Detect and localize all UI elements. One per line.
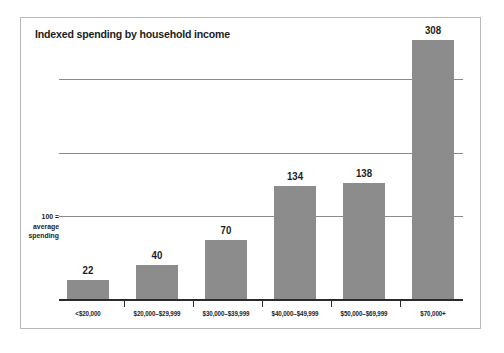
baseline-annotation-line2: average xyxy=(16,222,59,232)
bar-2[interactable] xyxy=(136,265,178,299)
bar-value-6: 308 xyxy=(414,24,453,36)
x-axis-tick-4 xyxy=(331,301,332,307)
chart-container: Indexed spending by household income 100… xyxy=(20,17,481,329)
bar-value-4: 134 xyxy=(276,170,315,182)
gridline-100 xyxy=(59,216,463,217)
x-axis-label-2: $20,000–$29,999 xyxy=(126,310,188,317)
baseline-annotation: 100 = average spending xyxy=(16,212,59,241)
bar-3[interactable] xyxy=(205,240,247,299)
plot-area: 100 = average spending 22 40 70 134 138 … xyxy=(21,18,480,328)
bar-value-1: 22 xyxy=(69,264,108,276)
x-axis-label-4: $40,000–$49,999 xyxy=(264,310,326,317)
baseline-annotation-line1: 100 = xyxy=(16,212,59,222)
x-axis-tick-5 xyxy=(400,301,401,307)
bar-6[interactable] xyxy=(412,40,454,299)
bar-value-5: 138 xyxy=(345,167,384,179)
x-axis-label-1: <$20,000 xyxy=(57,310,119,317)
bar-4[interactable] xyxy=(274,186,316,299)
x-axis-label-3: $30,000–$39,999 xyxy=(195,310,257,317)
bar-value-3: 70 xyxy=(207,224,246,236)
x-axis-tick-3 xyxy=(262,301,263,307)
x-axis-label-6: $70,000+ xyxy=(402,310,464,317)
x-axis-line xyxy=(59,299,463,301)
bar-value-2: 40 xyxy=(138,249,177,261)
x-axis-label-5: $50,000–$69,999 xyxy=(333,310,395,317)
gridline-300 xyxy=(59,79,463,80)
page-canvas: Indexed spending by household income 100… xyxy=(0,0,504,353)
x-axis-tick-1 xyxy=(124,301,125,307)
x-axis-tick-2 xyxy=(193,301,194,307)
baseline-annotation-line3: spending xyxy=(16,231,59,241)
bar-5[interactable] xyxy=(343,183,385,299)
gridline-200 xyxy=(59,153,463,154)
bar-1[interactable] xyxy=(67,280,109,299)
